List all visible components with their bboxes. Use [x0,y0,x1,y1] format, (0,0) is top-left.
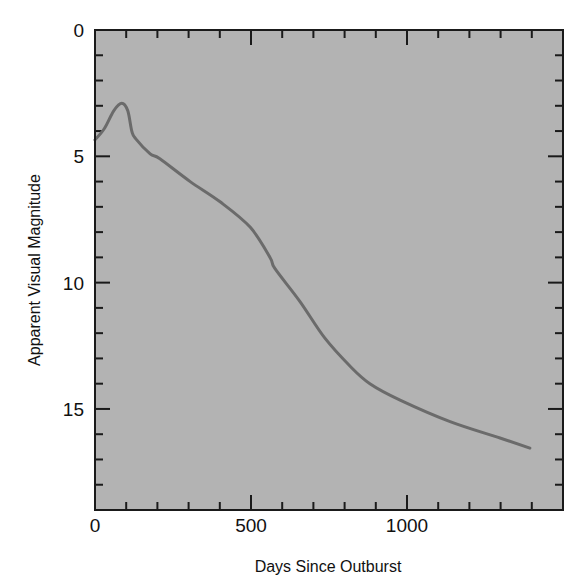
y-tick-label: 0 [73,20,84,41]
light-curve-chart: 05001000 051015 Days Since Outburst Appa… [0,0,582,579]
x-tick-label: 0 [90,515,101,536]
y-axis-label: Apparent Visual Magnitude [26,174,43,366]
y-tick-label: 15 [63,399,84,420]
y-tick-label: 5 [73,146,84,167]
y-tick-labels: 051015 [63,20,84,420]
x-tick-labels: 05001000 [90,515,428,536]
x-tick-label: 1000 [386,515,428,536]
x-axis-label: Days Since Outburst [255,558,402,575]
plot-area [95,30,563,510]
x-tick-label: 500 [235,515,267,536]
y-tick-label: 10 [63,273,84,294]
